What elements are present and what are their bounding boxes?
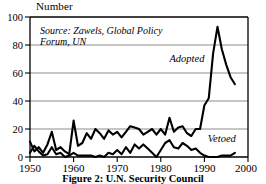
y-tick-label-100: 100 <box>7 12 23 23</box>
figure-caption: Figure 2: U.N. Security Council <box>0 172 266 184</box>
x-tick-label-1960: 1960 <box>63 162 86 172</box>
source-note-line-2: Forum, UN <box>39 36 87 47</box>
chart-plot: 100 80 60 40 20 0 1950 1960 1970 1980 19… <box>0 0 266 172</box>
y-tick-label-80: 80 <box>13 40 24 51</box>
figure-container: Number 100 80 60 <box>0 0 266 184</box>
y-tick-label-20: 20 <box>13 124 24 135</box>
x-tick-label-1970: 1970 <box>106 162 129 172</box>
y-tick-label-60: 60 <box>13 68 24 79</box>
source-note-line-1: Source: Zawels, Global Policy <box>40 25 163 36</box>
y-tick-label-40: 40 <box>13 96 24 107</box>
x-tick-label-1950: 1950 <box>19 162 42 172</box>
y-axis-ticks <box>25 17 30 157</box>
x-tick-label-2000: 2000 <box>235 162 258 172</box>
series-label-vetoed: Vetoed <box>208 133 237 144</box>
x-tick-label-1980: 1980 <box>150 162 173 172</box>
x-tick-label-1990: 1990 <box>193 162 216 172</box>
series-label-adopted: Adopted <box>168 53 205 64</box>
